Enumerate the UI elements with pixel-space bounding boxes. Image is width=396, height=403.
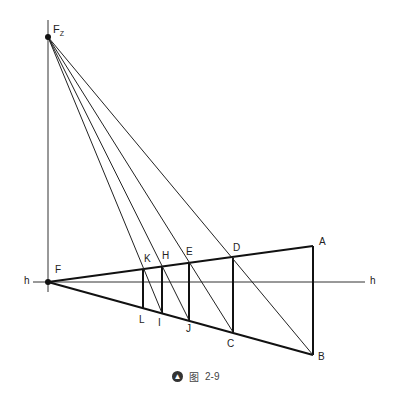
label-Fz: FZ	[53, 24, 64, 37]
caption-prefix: 图	[189, 369, 199, 384]
top-edge-line	[48, 246, 313, 282]
label-H: H	[162, 251, 169, 261]
label-h-right: h	[370, 276, 376, 286]
diagonal-Fz-C	[48, 37, 233, 332]
arrow-up-circle-icon: ▲	[172, 371, 183, 382]
point-Fz	[45, 34, 51, 40]
label-J: J	[186, 324, 191, 334]
diagonal-Fz-J	[48, 37, 189, 320]
label-D: D	[233, 243, 240, 253]
bottom-edge-line	[48, 282, 313, 355]
perspective-diagram	[0, 0, 396, 403]
label-B: B	[318, 352, 325, 362]
label-E: E	[186, 247, 193, 257]
label-K: K	[144, 254, 151, 264]
label-L: L	[139, 315, 145, 325]
label-C: C	[227, 339, 234, 349]
caption-number: 2-9	[205, 371, 219, 382]
label-I: I	[158, 318, 161, 328]
point-F	[45, 279, 51, 285]
label-F: F	[55, 265, 61, 275]
figure-caption: ▲ 图 2-9	[172, 369, 219, 384]
label-h-left: h	[24, 276, 30, 286]
label-A: A	[319, 237, 326, 247]
diagonal-Fz-B	[48, 37, 313, 355]
diagonal-Fz-I	[48, 37, 162, 313]
